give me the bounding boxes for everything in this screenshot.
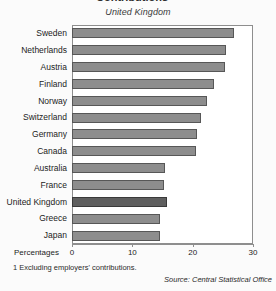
x-tick-mark xyxy=(72,244,73,247)
bar xyxy=(72,79,214,89)
x-tick-mark xyxy=(253,244,254,247)
bar-row: France xyxy=(72,177,253,194)
category-label: Netherlands xyxy=(21,46,72,55)
x-tick-label: 0 xyxy=(70,248,74,257)
category-label: Germany xyxy=(32,130,72,139)
category-label: Norway xyxy=(38,97,72,106)
x-tick-label: 20 xyxy=(188,248,197,257)
category-label: Sweden xyxy=(36,29,72,38)
bar-row: Germany xyxy=(72,126,253,143)
x-tick-label: 30 xyxy=(249,248,258,257)
clipped-heading-text: Contributions xyxy=(96,0,168,3)
bar-row: Finland xyxy=(72,76,253,93)
bar-row: Canada xyxy=(72,143,253,160)
bar-row: Australia xyxy=(72,160,253,177)
bar-row: Japan xyxy=(72,227,253,244)
chart-title: United Kingdom xyxy=(0,7,276,17)
clipped-heading-remnant: Contributions xyxy=(0,0,276,4)
bar xyxy=(72,28,234,38)
x-tick-mark xyxy=(132,244,133,247)
x-tick-mark xyxy=(193,244,194,247)
category-label: Switzerland xyxy=(23,113,72,122)
footnote: 1 Excluding employers' contributions. xyxy=(13,263,137,272)
category-label: United Kingdom xyxy=(7,198,72,207)
bar xyxy=(72,214,160,224)
x-axis-line xyxy=(72,244,254,245)
category-label: Japan xyxy=(44,231,72,240)
bar xyxy=(72,96,207,106)
bar-row: Sweden xyxy=(72,25,253,42)
category-label: Canada xyxy=(37,147,72,156)
bar xyxy=(72,146,196,156)
x-axis-title: Percentages xyxy=(14,248,59,257)
x-tick-label: 10 xyxy=(128,248,137,257)
category-label: France xyxy=(41,181,72,190)
category-label: Finland xyxy=(39,80,72,89)
category-label: Australia xyxy=(34,164,72,173)
bar xyxy=(72,113,201,123)
category-label: Austria xyxy=(41,63,72,72)
bar-row: Greece xyxy=(72,210,253,227)
bar-row: Switzerland xyxy=(72,109,253,126)
bar xyxy=(72,129,197,139)
bar xyxy=(72,163,165,173)
bar xyxy=(72,62,225,72)
bar-series: SwedenNetherlandsAustriaFinlandNorwaySwi… xyxy=(72,25,253,244)
category-label: Greece xyxy=(39,214,72,223)
bar-row: Netherlands xyxy=(72,42,253,59)
bar xyxy=(72,45,226,55)
bar xyxy=(72,231,160,241)
bar xyxy=(72,197,167,207)
bar-row: Austria xyxy=(72,59,253,76)
chart-figure: Contributions United Kingdom SwedenNethe… xyxy=(0,0,276,291)
bar-row: Norway xyxy=(72,92,253,109)
source-note: Source: Central Statistical Office xyxy=(164,275,272,284)
bar xyxy=(72,180,164,190)
bar-row: United Kingdom xyxy=(72,193,253,210)
